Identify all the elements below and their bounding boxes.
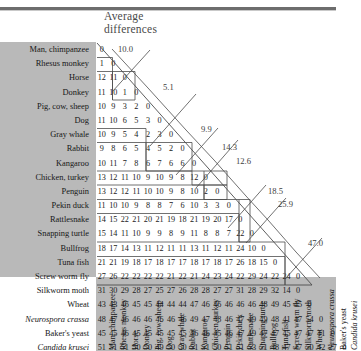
matrix-cell: 26 <box>235 256 247 270</box>
table-row: 111010 <box>96 86 350 100</box>
row-label: Donkey <box>0 86 93 100</box>
matrix-cell: 17 <box>108 242 120 256</box>
table-row: 11106530 <box>96 114 350 128</box>
matrix-cell: 11 <box>223 242 235 256</box>
matrix-cell: 3 <box>200 199 212 213</box>
row-label: Tuna fish <box>0 256 93 270</box>
annotation-12-6: 12.6 <box>236 156 251 166</box>
table-row: 2121191817181717181718172618150 <box>96 256 350 270</box>
row-label: Screw worm fly <box>0 270 93 284</box>
row-label: Snapping turtle <box>0 227 93 241</box>
matrix-cell: 11 <box>96 86 108 100</box>
matrix-cell: 10 <box>188 185 200 199</box>
matrix-cell: 10 <box>142 185 154 199</box>
matrix-cell: 19 <box>165 213 177 227</box>
matrix-cell: 51 <box>96 341 108 351</box>
column-label: Gray whale <box>176 278 188 350</box>
matrix-cell: 10 <box>188 199 200 213</box>
row-label: Gray whale <box>0 128 93 142</box>
matrix-cell: 14 <box>119 242 131 256</box>
column-label: Silkworm moth <box>303 278 315 350</box>
table-row: 1110109887610330 <box>96 199 350 213</box>
matrix-cell: 4 <box>131 128 143 142</box>
matrix-cell: 0 <box>96 43 108 57</box>
matrix-cell: 9 <box>177 227 189 241</box>
matrix-cell: 3 <box>142 114 154 128</box>
matrix-cell: 17 <box>177 256 189 270</box>
column-label: Rattlesnake <box>245 278 257 350</box>
matrix-cell: 6 <box>119 114 131 128</box>
matrix-cell: 2 <box>131 100 143 114</box>
matrix-cell: 11 <box>142 242 154 256</box>
matrix-cell: 9 <box>142 227 154 241</box>
column-label: Screw worm fly <box>291 278 303 350</box>
table-row: 12110 <box>96 71 350 85</box>
matrix-cell: 11 <box>119 171 131 185</box>
matrix-cell: 21 <box>131 213 143 227</box>
matrix-cell: 12 <box>108 171 120 185</box>
column-label: Neurospora crassa <box>326 278 338 350</box>
figure-title-line2: differences <box>104 23 224 36</box>
row-label: Rhesus monkey <box>0 57 93 71</box>
row-label: Pig, cow, sheep <box>0 100 93 114</box>
matrix-cell: 0 <box>246 227 258 241</box>
matrix-cell: 17 <box>165 256 177 270</box>
matrix-cell: 14 <box>96 213 108 227</box>
matrix-cell: 13 <box>96 171 108 185</box>
matrix-cell: 8 <box>131 157 143 171</box>
matrix-cell: 0 <box>119 71 131 85</box>
matrix-cell: 9 <box>154 227 166 241</box>
matrix-cell: 10 <box>108 86 120 100</box>
table-row: 131212111010981020 <box>96 185 350 199</box>
row-label: Chicken, turkey <box>0 171 93 185</box>
matrix-cell: 17 <box>200 256 212 270</box>
matrix-cell: 9 <box>165 185 177 199</box>
matrix-cell: 8 <box>177 171 189 185</box>
matrix-cell: 12 <box>119 185 131 199</box>
matrix-cell: 17 <box>223 256 235 270</box>
matrix-cell: 3 <box>119 100 131 114</box>
annotation-10-0: 10.0 <box>118 44 133 54</box>
matrix-cell: 24 <box>235 242 247 256</box>
matrix-cell: 8 <box>177 185 189 199</box>
matrix-cell: 2 <box>165 142 177 156</box>
matrix-cell: 0 <box>223 199 235 213</box>
matrix-cell: 27 <box>96 270 108 284</box>
column-label: Pig, cow, sheep <box>153 278 165 350</box>
row-label: Man, chimpanzee <box>0 43 93 57</box>
table-row: 109320 <box>96 100 350 114</box>
matrix-cell: 17 <box>223 213 235 227</box>
matrix-cell: 11 <box>188 227 200 241</box>
matrix-cell: 21 <box>96 256 108 270</box>
matrix-cell: 3 <box>154 128 166 142</box>
matrix-cell: 10 <box>108 114 120 128</box>
matrix-cell: 20 <box>142 213 154 227</box>
matrix-cell: 8 <box>211 227 223 241</box>
table-row: 1415222120211918211920170 <box>96 213 350 227</box>
matrix-cell: 7 <box>223 227 235 241</box>
matrix-cell: 12 <box>108 185 120 199</box>
matrix-cell: 0 <box>200 171 212 185</box>
matrix-cell: 0 <box>177 142 189 156</box>
matrix-cell: 45 <box>96 327 108 341</box>
row-label: Kangaroo <box>0 157 93 171</box>
matrix-cell: 18 <box>96 242 108 256</box>
matrix-cell: 10 <box>119 199 131 213</box>
matrix-cell: 18 <box>188 256 200 270</box>
table-row: 1312111091098120 <box>96 171 350 185</box>
matrix-cell: 9 <box>131 199 143 213</box>
row-label: Horse <box>0 71 93 85</box>
row-label: Baker's yeast <box>0 327 93 341</box>
matrix-cell: 8 <box>165 227 177 241</box>
column-label: Penguin <box>222 278 234 350</box>
column-label: Rhesus monkey <box>118 278 130 350</box>
matrix-cell: 12 <box>188 171 200 185</box>
matrix-cell: 15 <box>96 227 108 241</box>
table-row: 10117867660 <box>96 157 350 171</box>
matrix-cell: 5 <box>154 142 166 156</box>
matrix-cell: 4 <box>142 142 154 156</box>
matrix-cell: 11 <box>131 185 143 199</box>
matrix-cell: 11 <box>108 71 120 85</box>
column-label: Dog <box>164 278 176 350</box>
